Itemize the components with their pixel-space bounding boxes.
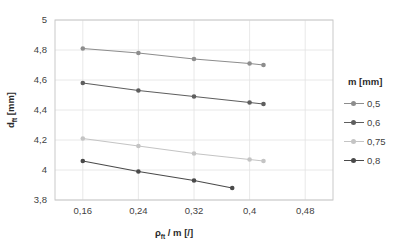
x-tick-label: 0,48 [296,205,315,216]
legend-item[interactable]: 0,75 [344,132,386,151]
legend-marker-dot [351,158,356,163]
series-point [247,61,252,66]
legend-marker-dot [351,139,356,144]
x-tick-label: 0,4 [243,205,256,216]
legend-marker-dot [351,120,356,125]
y-tick-label: 4 [42,164,47,175]
data-series-layer [81,46,266,190]
y-axis-tick-labels: 3,844,24,44,64,85 [34,14,47,205]
series-point [136,88,141,93]
legend-title: m [mm] [348,76,386,87]
svg-text:dft [mm]: dft [mm] [5,92,18,128]
chart-legend: m [mm] 0,50,60,750,8 [344,0,410,246]
legend-item-label: 0,6 [367,117,380,128]
x-tick-label: 0,16 [74,205,93,216]
x-tick-label: 0,24 [129,205,148,216]
legend-item-label: 0,5 [367,98,380,109]
chart-root: 3,844,24,44,64,85 0,160,240,320,40,48 ρf… [0,0,410,246]
data-series [81,46,266,67]
series-line [83,83,264,104]
series-point [261,102,266,107]
y-tick-label: 5 [42,14,47,25]
series-point [81,136,86,141]
series-point [81,159,86,164]
legend-marker-dot [351,101,356,106]
chart-plot-area: 3,844,24,44,64,85 0,160,240,320,40,48 ρf… [0,0,340,246]
series-point [81,81,86,86]
series-point [81,46,86,51]
legend-color-swatch [344,156,364,166]
svg-text:ρft / m [/]: ρft / m [/] [155,227,193,240]
legend-color-swatch [344,118,364,128]
series-point [230,186,235,191]
series-point [247,100,252,105]
series-point [192,151,197,156]
series-point [192,57,197,62]
y-tick-label: 4,4 [34,104,47,115]
series-line [83,49,264,66]
legend-item[interactable]: 0,5 [344,94,386,113]
y-tick-label: 4,6 [34,74,47,85]
line-chart-svg: 3,844,24,44,64,85 0,160,240,320,40,48 ρf… [0,0,340,246]
series-line [83,139,264,162]
legend-color-swatch [344,137,364,147]
data-series [81,159,235,191]
legend-color-swatch [344,99,364,109]
series-point [261,63,266,68]
y-axis-title: dft [mm] [5,92,18,128]
legend-item-label: 0,75 [367,136,386,147]
y-tick-label: 4,2 [34,134,47,145]
gridlines [55,20,333,200]
data-series [81,81,266,107]
x-axis-title: ρft / m [/] [155,227,193,240]
series-point [136,169,141,174]
legend-item[interactable]: 0,8 [344,151,386,170]
legend-item[interactable]: 0,6 [344,113,386,132]
series-line [83,161,232,188]
legend-item-label: 0,8 [367,155,380,166]
series-point [136,144,141,149]
legend-items-list: 0,50,60,750,8 [344,94,386,170]
y-tick-label: 3,8 [34,194,47,205]
series-point [136,51,141,56]
x-axis-tick-labels: 0,160,240,320,40,48 [74,205,315,216]
x-tick-label: 0,32 [185,205,204,216]
series-point [192,94,197,99]
series-point [261,159,266,164]
series-point [247,157,252,162]
series-point [192,178,197,183]
y-tick-label: 4,8 [34,44,47,55]
